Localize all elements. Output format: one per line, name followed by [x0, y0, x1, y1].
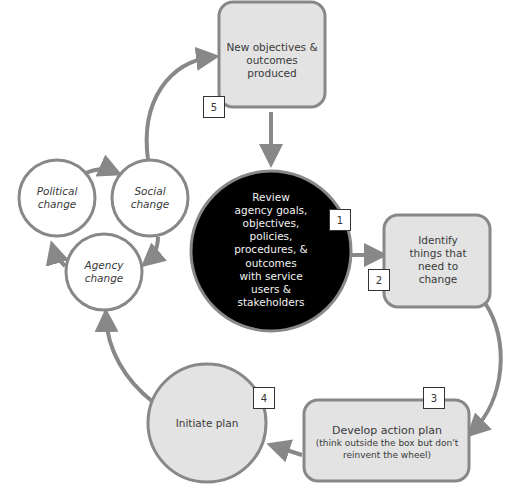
step-badge-3: 3	[423, 387, 445, 409]
step-badge-4: 4	[253, 387, 275, 409]
arrow-initiate-to-agency	[106, 316, 153, 402]
label-review: Review agency goals, objectives, policie…	[201, 185, 341, 315]
arrow-political-to-social	[86, 169, 115, 173]
label-new-objectives: New objectives & outcomes produced	[222, 30, 322, 90]
label-agency: Agency change	[69, 256, 139, 288]
step-badge-2: 2	[368, 269, 390, 291]
arrow-develop-to-initiate	[274, 446, 302, 455]
label-initiate: Initiate plan	[150, 410, 264, 436]
step-badge-5: 5	[203, 96, 225, 118]
label-identify: Identify things that need to change	[388, 225, 488, 295]
arrow-agency-to-political	[53, 248, 65, 266]
label-develop: Develop action plan (think outside the b…	[306, 415, 468, 470]
arrow-social-to-agency	[147, 237, 158, 262]
label-social: Social change	[115, 182, 185, 214]
label-political: Political change	[22, 182, 92, 214]
step-badge-1: 1	[329, 209, 351, 231]
arrow-identify-to-develop	[472, 303, 501, 432]
